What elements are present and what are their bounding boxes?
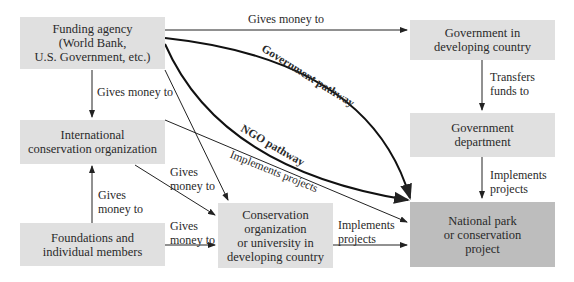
intl-org-box: International conservation organization: [20, 120, 165, 164]
label-transfers: Transfers funds to: [490, 70, 535, 98]
funding-agency-box: Funding agency (World Bank, U.S. Governm…: [20, 17, 165, 69]
conservation-org-box: Conservation organization or university …: [218, 203, 333, 268]
gov-department-box: Government department: [410, 113, 555, 157]
label-intl-cons: Gives money to: [170, 165, 215, 193]
label-found-intl: Gives money to: [98, 188, 143, 216]
foundations-box: Foundations and individual members: [20, 223, 165, 266]
national-park-box: National park or conservation project: [410, 202, 555, 267]
government-box: Government in developing country: [410, 20, 555, 60]
label-cons-park: Implements projects: [338, 218, 395, 246]
label-govdept-park: Implements projects: [490, 168, 547, 196]
label-fund-intl: Gives money to: [97, 85, 173, 99]
label-found-cons: Gives money to: [170, 219, 215, 247]
diagram: Funding agency (World Bank, U.S. Governm…: [0, 0, 574, 282]
label-top: Gives money to: [248, 12, 324, 26]
